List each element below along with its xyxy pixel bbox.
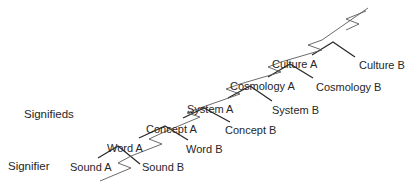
diagram-lines <box>0 0 408 190</box>
zigzag-top-z <box>346 11 366 30</box>
label-sound-a: Sound A <box>70 161 112 174</box>
label-word-b: Word B <box>186 143 222 156</box>
label-system-b: System B <box>272 104 319 117</box>
label-concept-a: Concept A <box>146 123 197 136</box>
label-sound-b: Sound B <box>142 161 184 174</box>
signifieds-label: Signifieds <box>24 108 74 121</box>
signifier-label: Signifier <box>8 160 50 173</box>
label-system-a: System A <box>187 103 233 116</box>
label-cosmology-a: Cosmology A <box>230 80 295 93</box>
roof-culture <box>312 42 355 57</box>
label-culture-b: Culture B <box>359 59 405 72</box>
label-culture-a: Culture A <box>272 58 317 71</box>
label-concept-b: Concept B <box>225 124 276 137</box>
label-word-a: Word A <box>107 142 143 155</box>
label-cosmology-b: Cosmology B <box>316 81 381 94</box>
